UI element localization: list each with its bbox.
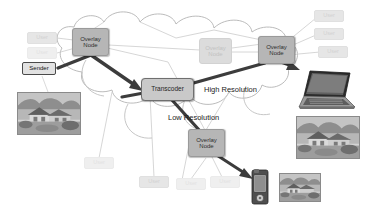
user-label: User [185,181,197,187]
overlay-node-right-label-line2: Node [266,50,287,56]
user-label: User [219,179,231,185]
user-node-top-left-2[interactable]: User [27,47,57,59]
transcoder-node[interactable]: Transcoder [141,78,194,101]
user-label: User [36,50,48,56]
user-node-top-right-2[interactable]: User [314,28,344,40]
user-node-bottom-right-2[interactable]: User [210,176,240,188]
user-label: User [148,179,160,185]
user-node-bottom-right-1[interactable]: User [176,178,206,190]
pda-device [249,168,271,206]
sender-label: Sender [29,65,48,71]
sender-node[interactable]: Sender [22,62,56,75]
overlay-node-middle[interactable]: Overlay Node [199,38,232,64]
user-label: User [323,13,335,19]
source-photo [17,92,81,135]
laptop-device [296,67,358,113]
handheld-pda-icon [249,168,271,206]
user-node-top-right-1[interactable]: User [314,10,344,22]
user-label: User [327,49,339,55]
overlay-node-left-label-line2: Node [80,42,101,48]
laptop-icon [296,67,358,113]
user-node-bottom-left[interactable]: User [84,157,114,169]
house-photo-graphic [297,117,359,158]
high-resolution-label: High Resolution [204,85,257,94]
user-label: User [36,35,48,41]
overlay-node-bottom[interactable]: Overlay Node [188,129,225,157]
user-label: User [93,160,105,166]
transcoder-label: Transcoder [151,86,184,93]
low-res-output-photo [279,173,321,202]
user-node-top-right-3[interactable]: User [318,46,348,58]
high-res-output-photo [296,116,360,159]
house-photo-graphic [280,174,320,201]
overlay-node-left[interactable]: Overlay Node [72,28,109,56]
overlay-node-bottom-label-line2: Node [196,143,217,149]
user-node-bottom-mid[interactable]: User [139,176,169,188]
low-resolution-label: Low Resolution [168,113,219,122]
source-photo-link [42,76,48,92]
user-label: User [323,31,335,37]
overlay-node-middle-label-line2: Node [205,51,226,57]
diagram-canvas: Overlay Node Overlay Node Overlay Node O… [0,0,367,211]
house-photo-graphic [18,93,80,134]
user-node-top-left-1[interactable]: User [27,32,57,44]
overlay-node-right[interactable]: Overlay Node [258,36,295,64]
